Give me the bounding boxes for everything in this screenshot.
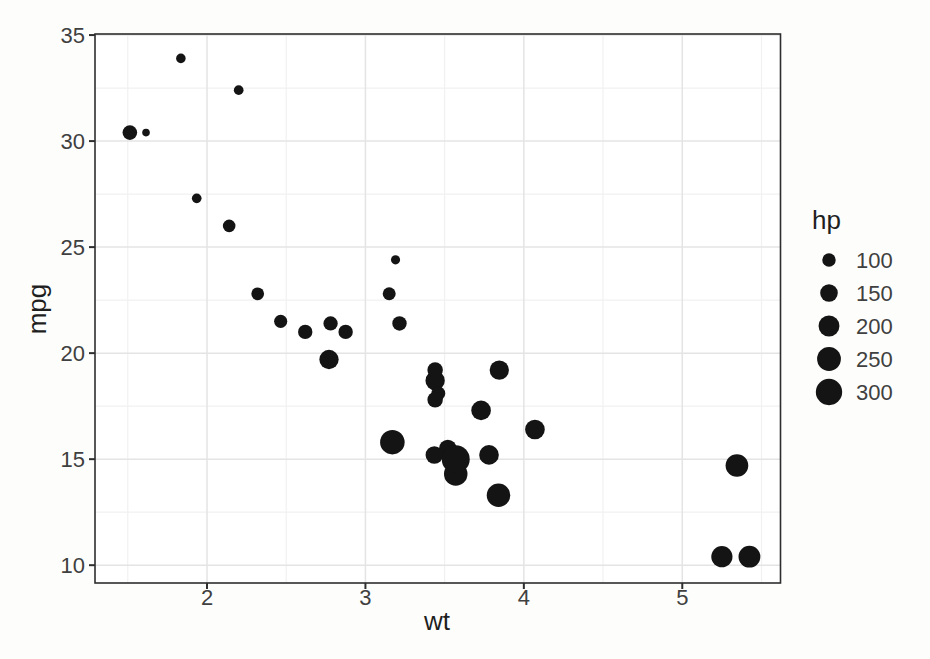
data-point	[298, 325, 312, 339]
x-tick-label: 4	[518, 585, 530, 610]
legend-title: hp	[812, 206, 841, 235]
y-tick-label: 10	[61, 553, 85, 578]
data-point	[338, 325, 352, 339]
legend-label: 200	[856, 314, 893, 339]
data-point	[192, 193, 202, 203]
legend-key-circle	[817, 347, 841, 371]
data-point	[234, 85, 244, 95]
data-point	[426, 446, 444, 464]
x-tick-label: 3	[359, 585, 371, 610]
data-point	[479, 445, 499, 465]
data-point	[142, 129, 150, 137]
data-point	[251, 287, 264, 300]
y-tick-label: 35	[61, 23, 85, 48]
data-point	[739, 546, 761, 568]
scatter-plot-figure: 2345101520253035100150200250300 wt mpg h…	[0, 0, 930, 659]
data-point	[123, 125, 138, 140]
legend-key-circle	[820, 284, 838, 302]
data-point	[274, 315, 287, 328]
legend-label: 150	[856, 281, 893, 306]
data-point	[427, 392, 442, 407]
data-point	[319, 350, 338, 369]
data-point	[525, 420, 545, 440]
x-tick-label: 2	[201, 585, 213, 610]
legend-key-circle	[822, 253, 835, 266]
y-tick-label: 25	[61, 235, 85, 260]
y-tick-label: 30	[61, 129, 85, 154]
data-point	[490, 360, 509, 379]
x-axis-title: wt	[424, 608, 450, 634]
data-point	[487, 483, 511, 507]
data-point	[323, 316, 337, 330]
data-point	[471, 401, 491, 421]
legend-key-circle	[816, 379, 842, 405]
plot-canvas: 2345101520253035100150200250300	[0, 0, 930, 659]
y-tick-label: 15	[61, 447, 85, 472]
data-point	[711, 546, 732, 567]
panel-background	[95, 34, 781, 583]
data-point	[391, 255, 400, 264]
x-tick-label: 5	[676, 585, 688, 610]
data-point	[223, 220, 236, 233]
legend-label: 250	[856, 347, 893, 372]
y-tick-label: 20	[61, 341, 85, 366]
legend-label: 300	[856, 380, 893, 405]
legend-label: 100	[856, 248, 893, 273]
data-point	[442, 445, 470, 473]
data-point	[726, 454, 749, 477]
data-point	[380, 430, 405, 455]
data-point	[392, 316, 406, 330]
data-point	[176, 54, 186, 64]
data-point	[427, 362, 442, 377]
legend-key-circle	[819, 316, 840, 337]
data-point	[383, 287, 396, 300]
y-axis-title: mpg	[24, 284, 50, 335]
